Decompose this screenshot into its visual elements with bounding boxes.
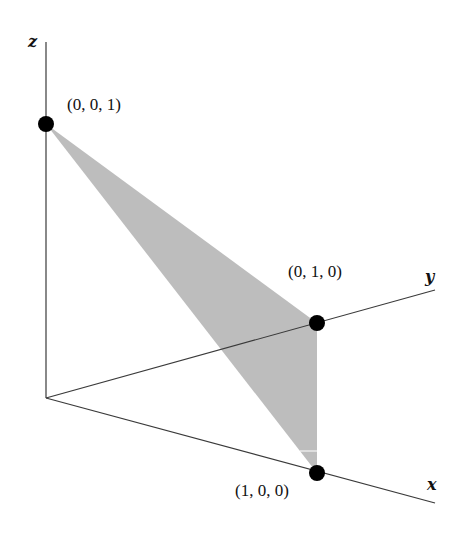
- label-y-intercept: (0, 1, 0): [288, 262, 342, 281]
- label-z-intercept: (0, 0, 1): [67, 95, 121, 114]
- point-y-intercept: [309, 315, 325, 331]
- z-axis-label: z: [27, 32, 38, 51]
- point-z-intercept: [38, 116, 54, 132]
- point-x-intercept: [309, 465, 325, 481]
- y-axis-label: y: [424, 267, 436, 286]
- shaded-plane-triangle: [46, 124, 317, 473]
- octant-plane-diagram: z y x (0, 0, 1) (0, 1, 0) (1, 0, 0): [0, 0, 468, 537]
- x-axis-label: x: [426, 475, 437, 494]
- label-x-intercept: (1, 0, 0): [235, 481, 289, 500]
